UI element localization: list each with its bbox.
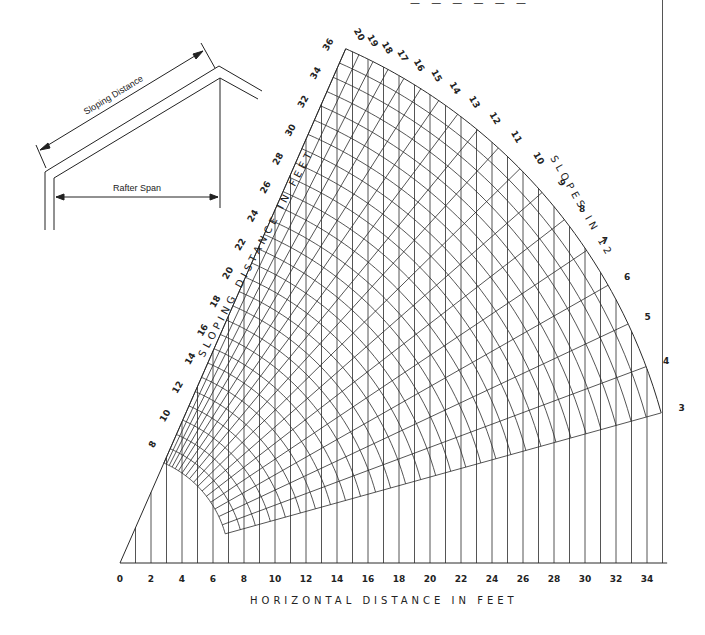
slope-label: 4 — [663, 356, 669, 366]
x-tick-label: 32 — [610, 574, 623, 584]
sloping-distance-label: 32 — [296, 94, 311, 110]
x-tick-label: 12 — [300, 574, 313, 584]
slope-label: 11 — [509, 129, 524, 145]
x-tick-label: 6 — [210, 574, 216, 584]
x-tick-label: 26 — [517, 574, 530, 584]
x-tick-label: 8 — [241, 574, 247, 584]
slope-label: 14 — [448, 80, 463, 96]
x-tick-label: 34 — [641, 574, 654, 584]
x-tick-label: 0 — [117, 574, 123, 584]
sloping-distance-label: 28 — [271, 151, 286, 167]
sloping-distance-label: Sloping Distance — [82, 73, 145, 116]
slope-label: 13 — [467, 94, 482, 110]
inset-roof-diagram — [36, 43, 262, 230]
sloping-distance-label: 34 — [308, 65, 323, 81]
x-tick-label: 24 — [486, 574, 499, 584]
x-tick-label: 22 — [455, 574, 468, 584]
x-axis-title: HORIZONTAL DISTANCE IN FEET — [250, 595, 518, 606]
slope-label: 16 — [412, 57, 427, 73]
sloping-distance-label: 20 — [220, 265, 235, 281]
sloping-distance-label: 36 — [321, 37, 336, 53]
x-tick-label: 30 — [579, 574, 592, 584]
nomogram-labels: 0246810121416182022242628303234810121416… — [117, 27, 685, 584]
x-tick-label: 20 — [424, 574, 437, 584]
sloping-distance-label: 26 — [258, 179, 273, 195]
slope-label: 6 — [624, 272, 630, 282]
sloping-distance-label: 8 — [147, 439, 159, 449]
slope-label: 17 — [395, 48, 410, 64]
x-tick-label: 4 — [179, 574, 185, 584]
page-header-title: — — — — — — — [410, 0, 530, 8]
sloping-distance-label: 12 — [170, 379, 185, 395]
rafter-nomogram: — — — — — — Sloping Distance Rafter Span… — [0, 0, 705, 635]
sloping-distance-label: 22 — [233, 236, 248, 252]
slope-label: 10 — [531, 150, 546, 166]
sloping-distance-label: 10 — [158, 408, 173, 424]
sloping-distance-label: 24 — [245, 208, 260, 224]
slope-label: 18 — [380, 40, 395, 56]
slope-label: 5 — [645, 312, 651, 322]
slope-label: 19 — [365, 33, 380, 49]
slope-label: 20 — [352, 27, 367, 43]
nomogram-grid — [120, 0, 667, 563]
sloping-distance-label: 30 — [283, 122, 298, 138]
x-tick-label: 10 — [269, 574, 282, 584]
slope-label: 15 — [429, 68, 444, 84]
x-tick-label: 14 — [331, 574, 344, 584]
x-tick-label: 18 — [393, 574, 406, 584]
slope-label: 12 — [488, 110, 503, 126]
x-tick-label: 16 — [362, 574, 375, 584]
slope-label: 3 — [679, 403, 685, 413]
rafter-span-label: Rafter Span — [113, 183, 161, 193]
x-tick-label: 28 — [548, 574, 561, 584]
x-tick-label: 2 — [148, 574, 154, 584]
